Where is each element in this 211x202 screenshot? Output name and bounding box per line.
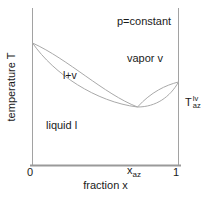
x-tick-zero: 0 bbox=[24, 166, 36, 178]
azeotrope-temperature-base: T bbox=[185, 96, 192, 108]
x-tick-azeotrope-base: x bbox=[127, 164, 133, 176]
pressure-constant-annotation: p=constant bbox=[117, 15, 171, 27]
azeotrope-temperature-label: T lv az bbox=[185, 95, 201, 109]
x-tick-azeotrope: xaz bbox=[127, 164, 141, 178]
x-tick-one: 1 bbox=[170, 166, 182, 178]
bubble-curve-right bbox=[138, 82, 179, 107]
phase-diagram-figure: temperature T fraction x p=constant vapo… bbox=[0, 0, 211, 202]
x-tick-azeotrope-subscript: az bbox=[133, 170, 141, 179]
x-axis-label: fraction x bbox=[32, 179, 179, 191]
dew-curve-left bbox=[33, 43, 138, 107]
azeotrope-temperature-subscript: az bbox=[193, 102, 201, 109]
y-axis-label: temperature T bbox=[5, 7, 17, 167]
azeotrope-temperature-scripts: lv az bbox=[193, 95, 201, 109]
liquid-region-label: liquid l bbox=[46, 119, 77, 131]
dew-curve-right bbox=[138, 82, 179, 107]
vapor-region-label: vapor v bbox=[127, 52, 163, 64]
two-phase-region-label: l+v bbox=[63, 69, 77, 81]
